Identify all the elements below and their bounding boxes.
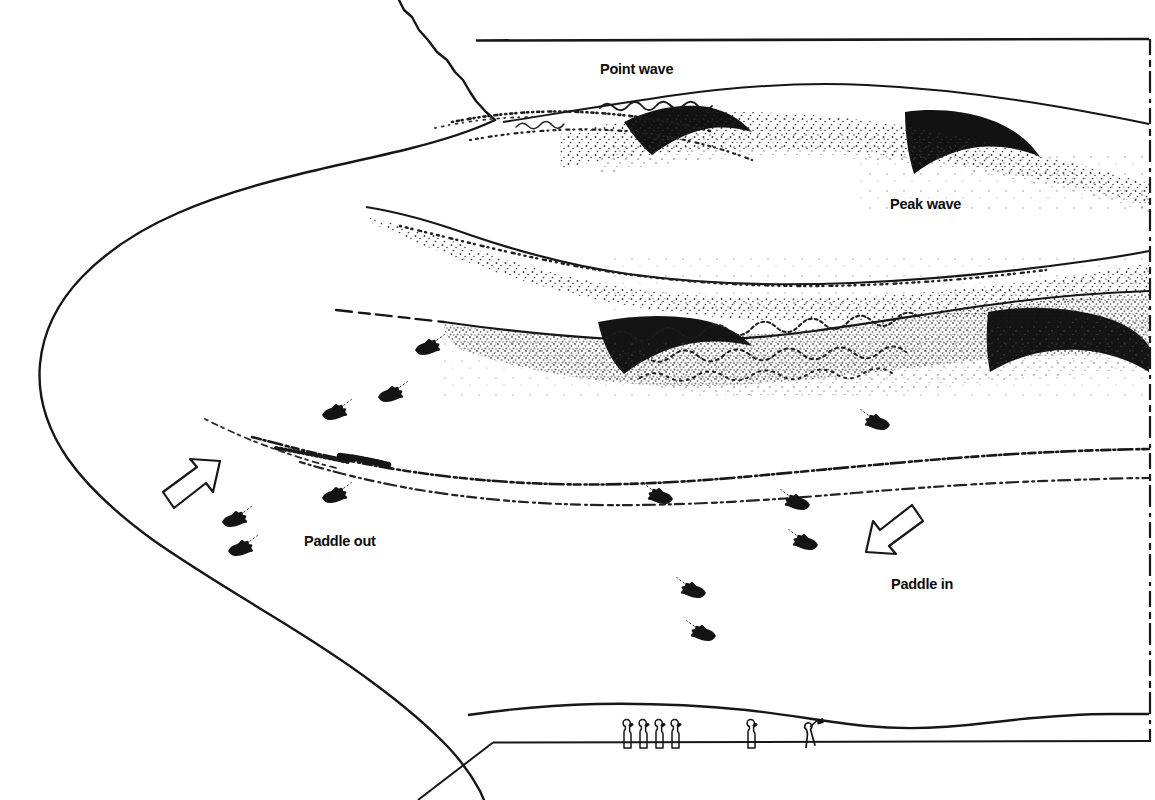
surf-break-illustration [0, 0, 1155, 800]
label-point-wave: Point wave [600, 61, 673, 77]
frame-top-rule [476, 39, 1149, 41]
label-peak-wave: Peak wave [890, 196, 961, 212]
illustration-page: nt is a board, normally pecifications, w… [0, 0, 1155, 800]
label-paddle-out: Paddle out [304, 533, 376, 549]
whitewater-wash [440, 340, 1149, 398]
label-paddle-in: Paddle in [891, 576, 953, 592]
